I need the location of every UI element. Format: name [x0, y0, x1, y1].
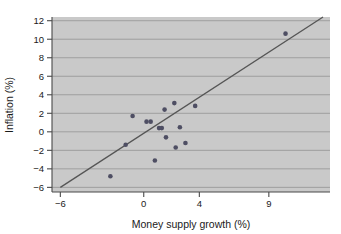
- data-point-15: [283, 31, 288, 36]
- y-tick-label-2: −2: [33, 145, 44, 156]
- y-tick-label-1: −4: [33, 163, 44, 174]
- data-point-5: [153, 158, 158, 163]
- x-axis-ticks: −6049: [55, 192, 272, 209]
- data-point-8: [162, 107, 167, 112]
- y-tick-label-8: 10: [33, 34, 44, 45]
- y-tick-label-6: 6: [39, 71, 44, 82]
- y-axis-ticks: −6−4−2024681012: [33, 15, 52, 193]
- scatter-chart-figure: −6049 −6−4−2024681012 Money supply growt…: [0, 0, 341, 234]
- y-tick-label-4: 2: [39, 108, 44, 119]
- y-tick-label-0: −6: [33, 182, 44, 193]
- x-axis-title: Money supply growth (%): [132, 218, 250, 230]
- chart-canvas: −6049 −6−4−2024681012 Money supply growt…: [0, 0, 341, 234]
- data-point-4: [148, 119, 153, 124]
- data-point-9: [164, 135, 169, 140]
- data-point-2: [130, 114, 135, 119]
- y-tick-label-5: 4: [39, 89, 44, 100]
- y-tick-label-3: 0: [39, 126, 44, 137]
- x-tick-label-1: 0: [141, 198, 146, 209]
- data-point-0: [108, 174, 113, 179]
- y-tick-label-7: 8: [39, 52, 44, 63]
- data-point-1: [123, 142, 128, 147]
- data-point-10: [172, 101, 177, 106]
- data-point-7: [160, 126, 165, 131]
- data-point-3: [144, 119, 149, 124]
- data-point-11: [173, 145, 178, 150]
- x-tick-label-0: −6: [55, 198, 66, 209]
- data-point-12: [178, 125, 183, 130]
- y-axis-title: Inflation (%): [3, 77, 15, 133]
- data-point-13: [183, 141, 188, 146]
- x-tick-label-3: 9: [266, 198, 271, 209]
- y-tick-label-9: 12: [33, 15, 44, 26]
- data-point-14: [193, 104, 198, 109]
- x-tick-label-2: 4: [197, 198, 202, 209]
